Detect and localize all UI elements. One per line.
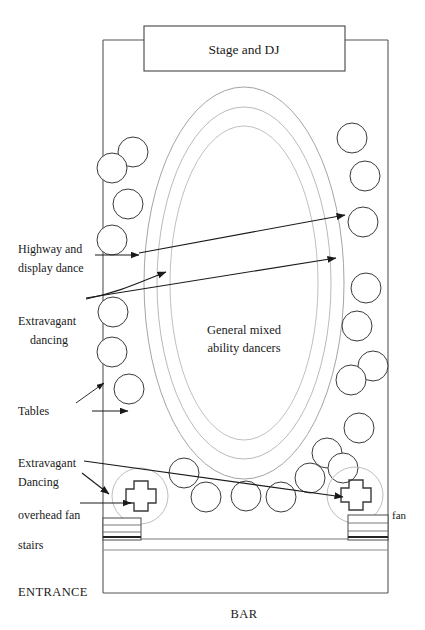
inner-ring [170,126,318,440]
centre-label-line1: General mixed [207,323,282,337]
side-labels: Highway and display dance Extravagant da… [18,242,84,552]
highway-label-line2: display dance [18,261,84,275]
dancefloor-centre-label: General mixed ability dancers [207,323,282,355]
left-fan-icon [126,481,156,511]
tables-diagonal-pointer [76,383,104,403]
nightclub-floorplan-diagram: Stage and DJ General mixed ability [0,0,425,630]
table-circle [97,337,127,367]
right-stairs [348,515,388,540]
table-circle [348,207,378,237]
table-circle [295,463,325,493]
extravagant2-label-line2: Dancing [18,475,59,489]
highway-label-line1: Highway and [18,242,82,256]
table-circle [97,225,127,255]
tables-label: Tables [18,404,49,418]
stage-label: Stage and DJ [208,42,279,57]
bar-label: BAR [231,607,258,621]
entrance-label: ENTRANCE [18,585,88,599]
entrance-bar-group: ENTRANCE BAR [18,585,258,621]
table-circle [351,273,381,303]
table-circle [97,153,127,183]
left-fan [112,468,168,524]
table-circle [350,161,380,191]
stage-and-dj-area: Stage and DJ [144,26,345,71]
dancefloor-rings [144,87,344,479]
extravagant2-label-line1: Extravagant [18,456,77,470]
highway-long-arrow-lower [86,258,336,298]
tables-group [97,123,388,512]
table-circle [337,123,367,153]
left-stairs [103,518,141,540]
right-fan-icon [341,480,371,510]
table-circle [344,413,374,443]
table-circle [191,482,221,512]
table-circle [98,297,128,327]
stairs-and-landing [103,515,388,550]
fan-right-label: fan [392,509,407,521]
table-circle [114,374,144,404]
left-fan-circle [112,468,168,524]
table-circle [342,311,372,341]
overhead-fan-label: overhead fan [18,508,80,522]
extravagant-label-line2: dancing [30,333,68,347]
extravagant-curve-arrow [86,272,166,299]
table-circle [113,189,143,219]
centre-label-line2: ability dancers [207,341,280,355]
extravagant-dancing-pointer [82,473,109,494]
extravagant-label-line1: Extravagant [18,314,77,328]
table-circle [336,365,366,395]
outer-ring [144,87,344,479]
stairs-label: stairs [18,538,44,552]
